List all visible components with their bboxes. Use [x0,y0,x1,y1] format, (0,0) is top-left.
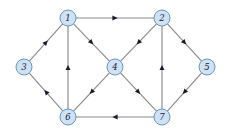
node-label-7: 7 [159,112,165,122]
directed-graph-figure: 1234567 [0,0,229,133]
edge-7-to-6 [76,115,154,120]
graph-node-7[interactable]: 7 [154,109,170,125]
edge-6-to-3 [29,73,62,111]
node-label-6: 6 [65,112,71,122]
edge-2-to-5 [167,24,201,61]
edge-2-to-4 [121,24,157,61]
nodes-layer: 1234567 [16,10,215,125]
node-label-3: 3 [21,62,26,72]
graph-node-1[interactable]: 1 [60,10,76,26]
edge-4-to-6 [73,73,109,111]
graph-node-4[interactable]: 4 [107,59,123,75]
edge-1-to-2 [76,16,154,21]
graph-node-2[interactable]: 2 [154,10,170,26]
edge-6-to-1 [66,26,71,109]
node-label-5: 5 [204,62,209,72]
graph-node-5[interactable]: 5 [199,59,215,75]
arrowhead-7-to-2 [160,65,165,70]
arrowhead-7-to-6 [112,115,117,120]
arrowhead-1-to-2 [112,16,117,21]
arrowhead-6-to-1 [66,65,71,70]
edge-7-to-2 [160,26,165,109]
graph-canvas: 1234567 [0,0,229,133]
graph-node-6[interactable]: 6 [60,109,76,125]
edge-3-to-1 [29,24,62,61]
graph-node-3[interactable]: 3 [16,59,32,75]
node-label-2: 2 [158,13,164,23]
node-label-1: 1 [65,13,70,23]
edge-5-to-7 [167,73,201,111]
edge-1-to-4 [74,24,110,61]
edge-4-to-7 [120,73,156,111]
node-label-4: 4 [111,62,117,72]
